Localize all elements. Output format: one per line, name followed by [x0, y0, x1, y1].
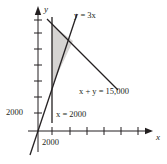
- graph-figure: y x y = 3x x + y = 15,000 x = 2000 2000 …: [0, 0, 167, 164]
- y-axis-tick-label-2000: 2000: [6, 108, 23, 117]
- label-line-y-equals-3x: y = 3x: [74, 11, 96, 20]
- x-axis-tick-label-2000: 2000: [42, 138, 59, 147]
- graph-canvas: [0, 0, 167, 164]
- y-axis-label: y: [44, 5, 48, 14]
- label-line-x-plus-y: x + y = 15,000: [79, 87, 129, 96]
- x-axis: [28, 127, 153, 135]
- label-line-x-equals-2000: x = 2000: [56, 110, 86, 119]
- x-axis-label: x: [156, 133, 160, 142]
